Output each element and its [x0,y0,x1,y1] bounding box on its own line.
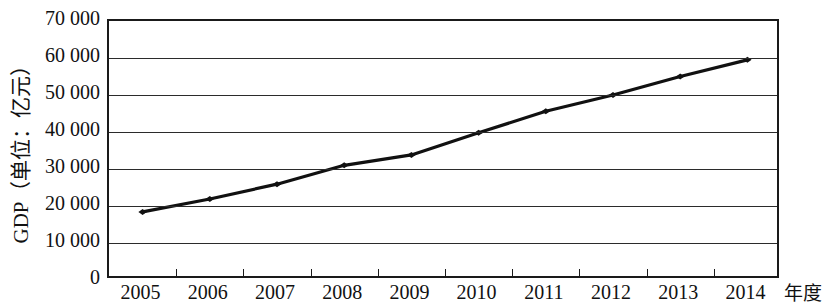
y-tick-label: 20 000 [4,193,100,213]
y-tick-label: 30 000 [4,156,100,176]
gridline [109,206,777,207]
plot-area [107,19,779,278]
x-axis-tick [647,269,648,276]
gdp-series-line [109,21,781,280]
y-axis-tick-labels: 70 00060 00050 00040 00030 00020 00010 0… [0,0,100,306]
x-axis-title: 年度 [784,282,822,304]
x-axis-tick [512,269,513,276]
series-polyline [143,60,748,212]
y-tick-label: 50 000 [4,82,100,102]
x-axis-tick [579,269,580,276]
y-tick-label: 70 000 [4,8,100,28]
y-tick-label: 10 000 [4,230,100,250]
gridline [109,169,777,170]
x-axis-tick [311,269,312,276]
x-axis-tick [176,269,177,276]
y-tick-label: 0 [4,267,100,287]
y-tick-label: 40 000 [4,119,100,139]
x-tick-label: 2014 [705,280,785,304]
x-axis-tick [243,269,244,276]
gridline [109,95,777,96]
y-tick-label: 60 000 [4,45,100,65]
x-axis-tick [714,269,715,276]
gridline [109,132,777,133]
x-axis-tick [445,269,446,276]
gridline [109,58,777,59]
gridline [109,243,777,244]
x-axis-tick [378,269,379,276]
x-axis-tick-labels: 2005200620072008200920102011201220132014 [107,280,779,306]
